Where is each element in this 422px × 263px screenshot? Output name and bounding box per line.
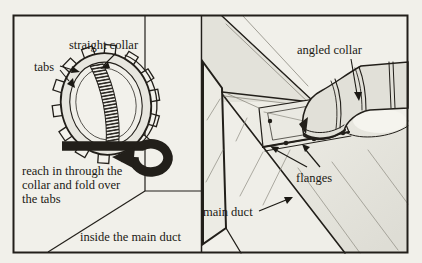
duct-installation-figure: straight collar tabs reach in through th… bbox=[0, 0, 422, 263]
caption: reach in through the collar and fold ove… bbox=[22, 164, 123, 206]
straight-collar-drawing bbox=[43, 36, 169, 172]
figure-canvas: straight collar tabs reach in through th… bbox=[0, 0, 422, 263]
straight-collar-label: straight collar bbox=[69, 38, 139, 52]
inside-main-duct-label: inside the main duct bbox=[80, 230, 182, 244]
caption-line-1: reach in through the bbox=[22, 164, 123, 178]
angled-collar-label: angled collar bbox=[297, 43, 363, 57]
main-duct-label: main duct bbox=[203, 205, 253, 219]
flanges-label: flanges bbox=[296, 171, 332, 185]
caption-line-3: the tabs bbox=[22, 192, 61, 206]
tabs-label: tabs bbox=[34, 60, 54, 74]
caption-line-2: collar and fold over bbox=[22, 178, 121, 192]
